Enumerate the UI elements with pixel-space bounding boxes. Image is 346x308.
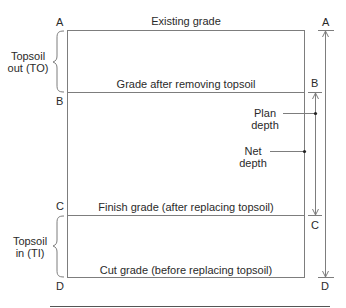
existing-grade-label: Existing grade xyxy=(67,15,305,27)
diagram-canvas xyxy=(0,0,346,308)
point-a-left: A xyxy=(56,16,63,28)
topsoil-in-line2: in (TI) xyxy=(8,247,52,259)
point-a-right: A xyxy=(322,16,329,28)
point-d-right: D xyxy=(321,280,329,292)
point-d-left: D xyxy=(56,280,64,292)
topsoil-out-line1: Topsoil xyxy=(4,50,52,62)
topsoil-out-label: Topsoil out (TO) xyxy=(4,50,52,74)
topsoil-out-line2: out (TO) xyxy=(4,62,52,74)
plan-depth-dot xyxy=(314,112,317,115)
plan-depth-line2: depth xyxy=(240,119,290,131)
topsoil-in-brace-icon xyxy=(53,216,64,277)
point-c-left: C xyxy=(56,200,64,212)
net-depth-label: Net depth xyxy=(228,145,278,169)
net-depth-line1: Net xyxy=(228,145,278,157)
plan-depth-label: Plan depth xyxy=(240,107,290,131)
topsoil-removed-grade-label: Grade after removing topsoil xyxy=(67,78,305,90)
net-depth-dot xyxy=(303,150,306,153)
point-b-left: B xyxy=(56,95,63,107)
topsoil-in-label: Topsoil in (TI) xyxy=(8,235,52,259)
topsoil-in-line1: Topsoil xyxy=(8,235,52,247)
point-c-right: C xyxy=(311,219,319,231)
finish-grade-label: Finish grade (after replacing topsoil) xyxy=(67,201,305,213)
plan-depth-line1: Plan xyxy=(240,107,290,119)
point-b-right: B xyxy=(311,77,318,89)
net-depth-line2: depth xyxy=(228,157,278,169)
topsoil-out-brace-icon xyxy=(53,31,64,92)
cut-grade-label: Cut grade (before replacing topsoil) xyxy=(67,264,305,276)
